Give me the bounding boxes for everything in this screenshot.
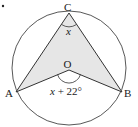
point-label-a: A — [5, 87, 13, 99]
bullet-dot — [2, 5, 4, 7]
angle-label-o: x + 22° — [49, 85, 82, 97]
point-label-o: O — [64, 58, 72, 70]
point-label-b: B — [124, 87, 131, 99]
point-label-c: C — [64, 1, 71, 13]
circle-theorem-diagram: C O A B x x + 22° — [0, 0, 138, 127]
angle-label-c: x — [65, 25, 71, 37]
angle-arc-o — [58, 75, 81, 84]
